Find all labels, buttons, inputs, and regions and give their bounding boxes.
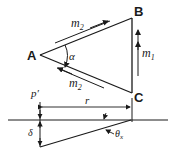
label-alpha: α bbox=[69, 50, 75, 62]
label-m1: m1 bbox=[142, 46, 155, 62]
tick-arrow bbox=[104, 113, 106, 119]
angle-alpha-arc bbox=[65, 45, 68, 67]
label-m2-lower: m2 bbox=[69, 76, 82, 92]
member-ac bbox=[40, 55, 132, 93]
label-theta: θx bbox=[115, 128, 124, 141]
truss-diagram: A B C m2 m2 m1 α p′ r δ θx bbox=[0, 0, 175, 156]
label-a: A bbox=[27, 48, 37, 63]
member-ab bbox=[40, 18, 132, 55]
angle-theta-arrow bbox=[106, 130, 114, 134]
label-b: B bbox=[134, 4, 143, 19]
label-c: C bbox=[134, 90, 144, 105]
label-delta: δ bbox=[28, 127, 33, 138]
triangle-abc bbox=[40, 18, 132, 93]
label-p-prime: p′ bbox=[30, 87, 40, 99]
label-m2-upper: m2 bbox=[71, 16, 84, 32]
label-r: r bbox=[85, 94, 90, 106]
